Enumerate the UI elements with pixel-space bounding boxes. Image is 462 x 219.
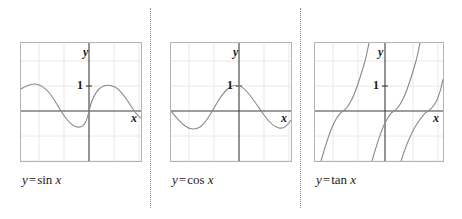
caption-cosine-equals: = <box>178 172 187 187</box>
caption-cosine: y=cos x <box>172 172 214 188</box>
plot-box-cosine: y x 1 <box>170 42 292 162</box>
gridlines-cosine <box>171 43 291 161</box>
y-axis-label-tangent: y <box>378 46 383 58</box>
y-tick-label-cosine: 1 <box>227 79 233 91</box>
trig-graphs-figure: y x 1 y=sin x <box>0 0 462 219</box>
x-axis-label-cosine: x <box>281 112 287 124</box>
caption-sine-arg: x <box>56 172 62 187</box>
y-axis-label-cosine: y <box>233 46 238 58</box>
x-axis-label-tangent: x <box>433 112 439 124</box>
gridlines-sine <box>21 43 141 161</box>
caption-sine-equals: = <box>28 172 37 187</box>
sine-plot-svg <box>21 43 141 161</box>
y-axis-label-sine: y <box>83 46 88 58</box>
caption-sine-y: y <box>22 172 28 187</box>
plot-box-tangent: y x 1 <box>314 42 444 162</box>
caption-sine: y=sin x <box>22 172 61 188</box>
caption-tangent: y=tan x <box>316 172 356 188</box>
panel-cosine: y x 1 y=cos x <box>150 0 300 219</box>
caption-cosine-fn: cos <box>187 172 204 187</box>
caption-tangent-equals: = <box>322 172 331 187</box>
panel-tangent: y x 1 y=tan x <box>300 0 450 219</box>
y-tick-label-sine: 1 <box>77 79 83 91</box>
caption-tangent-arg: x <box>350 172 356 187</box>
caption-tangent-y: y <box>316 172 322 187</box>
caption-tangent-fn: tan <box>331 172 347 187</box>
y-tick-label-tangent: 1 <box>373 79 379 91</box>
panel-sine: y x 1 y=sin x <box>0 0 150 219</box>
plot-box-sine: y x 1 <box>20 42 142 162</box>
caption-cosine-y: y <box>172 172 178 187</box>
gridlines-tangent <box>315 43 443 161</box>
tangent-plot-svg <box>315 43 443 161</box>
cosine-plot-svg <box>171 43 291 161</box>
x-axis-label-sine: x <box>131 112 137 124</box>
caption-sine-fn: sin <box>37 172 52 187</box>
caption-cosine-arg: x <box>208 172 214 187</box>
